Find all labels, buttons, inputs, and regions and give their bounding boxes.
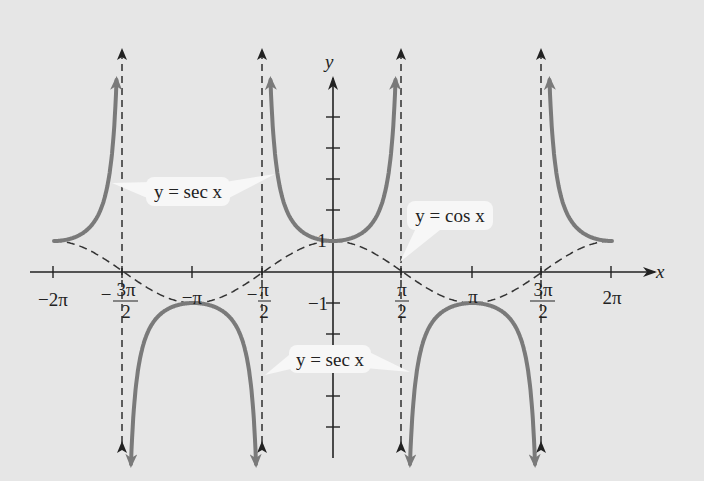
tick-label-neg-pi: −π	[182, 287, 203, 308]
callout-sec-upper: y = sec x	[112, 174, 275, 206]
x-axis-label: x	[655, 261, 665, 282]
asymptotes	[122, 50, 541, 443]
svg-text:3π: 3π	[533, 279, 553, 300]
callout-sec-lower-text: y = sec x	[296, 349, 365, 370]
tick-label-neg-3pi-2: − 3π 2	[101, 279, 138, 322]
sec-branch-1	[54, 80, 117, 241]
sec-branch-4	[271, 80, 334, 241]
tick-label-2pi: 2π	[602, 287, 622, 308]
svg-text:2: 2	[397, 301, 407, 322]
svg-text:π: π	[259, 279, 269, 300]
tick-label-pi-2: π 2	[395, 279, 409, 322]
sec-branch-3	[194, 303, 257, 464]
tick-label-3pi-2: 3π 2	[530, 279, 555, 322]
sec-branch-7	[473, 303, 536, 464]
callout-sec-upper-text: y = sec x	[154, 181, 223, 202]
svg-text:−: −	[101, 284, 112, 305]
tick-label-pi: π	[468, 286, 478, 307]
svg-text:−: −	[247, 284, 258, 305]
tick-label-one: 1	[317, 230, 327, 251]
callout-cos-text: y = cos x	[415, 205, 485, 226]
sec-branch-2	[131, 303, 194, 464]
sec-branch-6	[410, 303, 473, 464]
sec-branch-5	[333, 80, 396, 241]
sec-branch-8	[550, 80, 613, 241]
svg-text:2: 2	[538, 301, 548, 322]
secant-cosine-chart: y = sec x y = cos x y = sec x x y −2π − …	[0, 0, 704, 481]
callout-cos: y = cos x	[400, 201, 493, 262]
svg-text:2: 2	[121, 301, 131, 322]
callout-sec-lower: y = sec x	[265, 345, 410, 375]
tick-label-neg-one: −1	[308, 293, 328, 314]
svg-text:2: 2	[259, 301, 269, 322]
svg-text:3π: 3π	[116, 279, 136, 300]
tick-label-neg-pi-2: − π 2	[247, 279, 271, 322]
tick-label-neg-2pi: −2π	[38, 289, 68, 310]
y-axis-label: y	[323, 51, 334, 72]
svg-text:π: π	[397, 279, 407, 300]
